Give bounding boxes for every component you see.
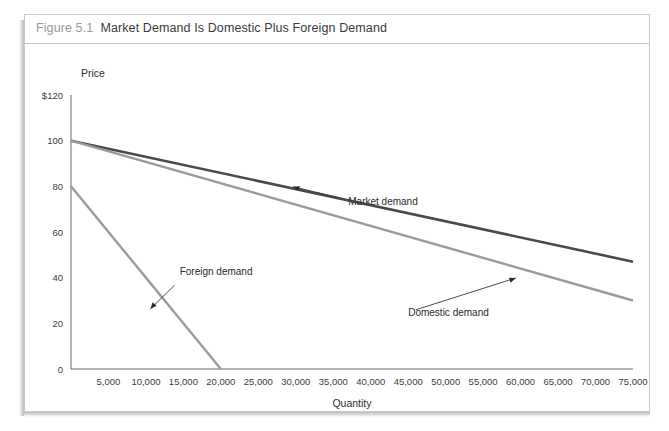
y-tick-label: 40 — [52, 272, 63, 283]
x-tick-label: 65,000 — [544, 376, 573, 387]
x-tick-label: 30,000 — [281, 376, 310, 387]
annotation-arrowhead — [509, 278, 516, 283]
x-tick-label: 40,000 — [356, 376, 385, 387]
x-tick-label: 15,000 — [169, 376, 198, 387]
x-tick-label: 60,000 — [506, 376, 535, 387]
annotation-label: Foreign demand — [180, 266, 253, 277]
x-tick-label: 45,000 — [394, 376, 423, 387]
y-tick-label: 60 — [52, 227, 63, 238]
annotation-leader — [416, 278, 516, 310]
x-tick-label: 50,000 — [431, 376, 460, 387]
chart-axes — [71, 95, 633, 369]
x-tick-label: 20,000 — [206, 376, 235, 387]
series-line-domestic-demand — [71, 141, 633, 301]
x-tick-label: 35,000 — [319, 376, 348, 387]
x-tick-label: 25,000 — [244, 376, 273, 387]
x-tick-label: 10,000 — [131, 376, 160, 387]
x-axis-title: Quantity — [332, 397, 372, 409]
figure-card: Figure 5.1 Market Demand Is Domestic Plu… — [24, 14, 650, 412]
chart-plot-area: 020406080100$1205,00010,00015,00020,0002… — [25, 15, 651, 413]
x-tick-label: 5,000 — [97, 376, 121, 387]
y-tick-label: $120 — [42, 90, 63, 101]
y-tick-label: 20 — [52, 318, 63, 329]
y-tick-label: 0 — [58, 364, 63, 375]
demand-line-chart: 020406080100$1205,00010,00015,00020,0002… — [25, 15, 651, 413]
annotation-label: Domestic demand — [408, 307, 489, 318]
annotation-leader — [293, 187, 341, 198]
y-tick-label: 80 — [52, 181, 63, 192]
y-tick-label: 100 — [47, 135, 63, 146]
x-tick-label: 75,000 — [618, 376, 647, 387]
annotation-label: Market demand — [348, 196, 417, 207]
y-axis-title: Price — [81, 67, 105, 79]
x-tick-label: 55,000 — [469, 376, 498, 387]
series-line-foreign-demand — [71, 186, 221, 369]
x-tick-label: 70,000 — [581, 376, 610, 387]
